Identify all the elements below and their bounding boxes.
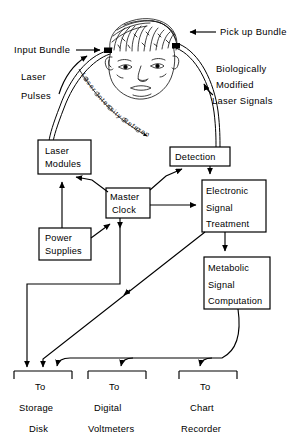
annotation-laser-pulses-1: Laser [21,71,46,82]
diagram-canvas: Laser Intensity Reference Laser Modules … [0,0,289,443]
block-label-line: Metabolic [208,263,249,273]
block-label-line: Clock [112,205,136,215]
block-label-line: Power [45,233,72,243]
output-label-line: To [35,381,45,392]
annotation-bio-modified-2: Modified [216,79,254,90]
output-label-line: Voltmeters [88,423,134,434]
block-master-clock[interactable]: Master Clock [106,188,150,218]
annotation-laser-pulses-2: Pulses [21,90,51,101]
diagram-svg: Laser Intensity Reference Laser Modules … [0,0,289,443]
output-label-line: To [200,381,210,392]
output-label-line: Digital [94,402,121,413]
block-label-line: Modules [45,159,81,169]
output-label-line: Recorder [181,423,221,434]
block-label-line: Signal [208,280,235,290]
block-metabolic-signal-computation[interactable]: Metabolic Signal Computation [204,257,270,309]
output-label-line: Chart [190,402,214,413]
output-label-line: Storage [19,402,53,413]
output-chart-recorder[interactable]: To Chart Recorder [179,371,237,434]
block-label-line: Treatment [206,219,250,229]
block-label-line: Electronic [206,186,249,196]
block-label-line: Computation [208,296,262,306]
annotation-bio-modified-3: Laser Signals [212,95,273,106]
output-label-line: Disk [29,423,48,434]
annotation-input-bundle: Input Bundle [14,44,70,55]
block-label-line: Laser [45,146,69,156]
output-storage-disk[interactable]: To Storage Disk [14,371,72,434]
block-label-line: Signal [206,203,233,213]
output-label-line: To [109,381,119,392]
block-detection[interactable]: Detection [170,147,230,166]
infant-head-illustration [105,19,179,100]
block-power-supplies[interactable]: Power Supplies [39,228,91,260]
block-label-line: Detection [175,152,216,162]
block-laser-modules[interactable]: Laser Modules [38,140,91,174]
block-electronic-signal-treatment[interactable]: Electronic Signal Treatment [202,180,266,232]
annotation-pickup-bundle: Pick up Bundle [220,26,287,37]
block-label-line: Supplies [45,246,82,256]
annotation-bio-modified-1: Biologically [216,63,267,74]
output-digital-voltmeters[interactable]: To Digital Voltmeters [88,371,146,434]
block-label-line: Master [110,192,139,202]
